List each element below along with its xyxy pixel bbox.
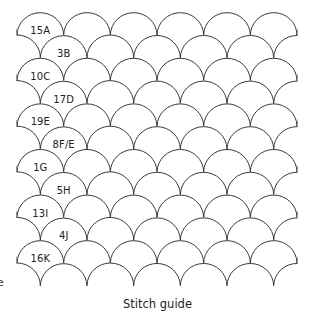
scale-label-row-1: 3B [57,49,70,59]
scale-label-row-6: 1G [33,163,47,173]
scale-label-row-5: 8F/E [53,140,75,150]
scale-label-row-8: 13I [32,209,48,219]
scale-row-outline [0,81,311,104]
scale-row-outline [0,217,311,240]
scale-row-outline [0,126,311,149]
scale-label-row-2: 10C [30,72,50,82]
scale-label-row-10: 16K [31,254,51,264]
clamshell-scale-pattern [0,0,311,318]
scale-row-outline [0,263,311,286]
scale-row-outline [0,35,311,58]
scale-label-row-9: 4J [59,231,69,241]
figure-caption: Stitch guide [0,298,311,310]
scale-label-row-7: 5H [57,186,71,196]
scale-label-row-3: 17D [53,95,74,105]
scale-label-row-4: 19E [31,117,50,127]
scale-label-row-0: 15A [30,26,50,36]
clipped-text-fragment: e [0,277,4,288]
clipped-text-fragment: . [0,256,1,267]
scale-row-outline [0,172,311,195]
